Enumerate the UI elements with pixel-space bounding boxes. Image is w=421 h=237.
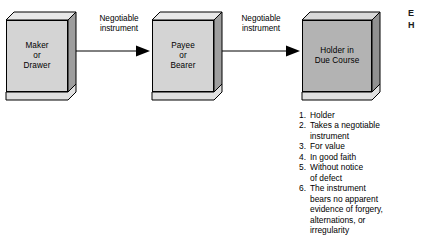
arrow-1-label: Negotiable instrument: [86, 14, 152, 34]
requirement-text-line: bears no apparent: [310, 194, 417, 204]
requirement-text-line: of defect: [310, 173, 417, 183]
requirement-text-line: Holder: [310, 110, 417, 120]
node-payee-line-3: Bearer: [170, 61, 195, 71]
requirement-item: 6. The instrument bears no apparent evid…: [299, 183, 417, 235]
requirement-text-line: irregularity: [310, 225, 417, 235]
requirement-item: 5. Without notice of defect: [299, 162, 417, 183]
requirement-text-line: Without notice: [310, 162, 417, 172]
edge-caption-clipped: E H: [408, 8, 421, 31]
requirement-text-line: For value: [310, 141, 417, 151]
node-payee-or-bearer: Payee or Bearer: [152, 10, 214, 92]
node-payee-line-1: Payee: [170, 41, 195, 51]
edge-caption-line-2: H: [408, 20, 421, 32]
requirement-item: 4. In good faith: [299, 152, 417, 162]
edge-caption-line-1: E: [408, 8, 421, 20]
node-maker-line-2: or: [24, 51, 51, 61]
node-holder-face: Holder in Due Course: [302, 20, 372, 92]
node-payee-face: Payee or Bearer: [152, 20, 214, 92]
arrow-1: [76, 44, 152, 58]
requirement-text-line: In good faith: [310, 152, 417, 162]
requirement-number: 2.: [299, 120, 306, 130]
requirement-number: 4.: [299, 152, 306, 162]
arrow-2-label: Negotiable instrument: [228, 14, 294, 34]
node-holder-in-due-course: Holder in Due Course: [302, 10, 372, 92]
arrow-2-label-line-1: Negotiable: [241, 14, 280, 23]
requirement-number: 6.: [299, 183, 306, 193]
requirement-number: 5.: [299, 162, 306, 172]
node-holder-line-1: Holder in: [315, 46, 360, 56]
requirement-text-line: alternations, or: [310, 215, 417, 225]
arrow-1-label-line-2: instrument: [100, 24, 138, 33]
requirement-item: 3. For value: [299, 141, 417, 151]
node-payee-line-2: or: [170, 51, 195, 61]
requirement-number: 1.: [299, 110, 306, 120]
node-maker-or-drawer: Maker or Drawer: [6, 10, 68, 92]
arrow-1-label-line-1: Negotiable: [99, 14, 138, 23]
node-maker-line-3: Drawer: [24, 61, 51, 71]
requirement-number: 3.: [299, 141, 306, 151]
requirement-text-line: instrument: [310, 131, 417, 141]
requirement-item: 1. Holder: [299, 110, 417, 120]
requirement-item: 2. Takes a negotiable instrument: [299, 120, 417, 141]
node-maker-line-1: Maker: [24, 41, 51, 51]
holder-in-due-course-requirements-list: 1. Holder 2. Takes a negotiable instrume…: [299, 110, 417, 235]
requirement-text-line: The instrument: [310, 183, 417, 193]
node-holder-line-2: Due Course: [315, 56, 360, 66]
requirement-text-line: evidence of forgery,: [310, 204, 417, 214]
arrow-2-label-line-2: instrument: [242, 24, 280, 33]
requirement-text-line: Takes a negotiable: [310, 120, 417, 130]
arrow-2: [222, 44, 302, 58]
negotiable-instrument-diagram: Maker or Drawer Negotiable instrument Pa…: [0, 0, 421, 237]
node-maker-face: Maker or Drawer: [6, 20, 68, 92]
